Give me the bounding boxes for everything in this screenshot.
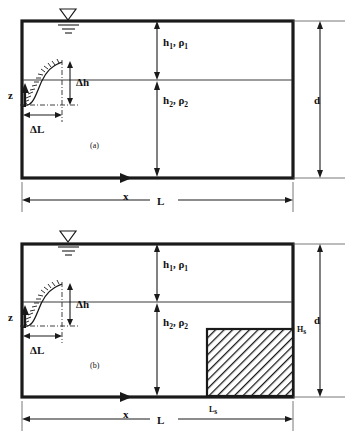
- block-height-label: Hs: [297, 325, 306, 336]
- delta-l-dimension-a: [23, 112, 62, 118]
- h1-dimension-b: [154, 244, 160, 302]
- h2-dimension-a: [154, 81, 160, 177]
- x-axis-arrow-b: [120, 392, 132, 402]
- depth-label-b: d: [314, 314, 320, 326]
- panel-a-diagram: Δh ΔL z x h1, ρ1: [0, 0, 351, 222]
- h2-dimension-b: [154, 303, 160, 396]
- panel-caption-b: (b): [90, 361, 100, 370]
- delta-h-dimension-b: [67, 283, 73, 326]
- delta-l-label-b: ΔL: [30, 344, 44, 356]
- figure-root: Δh ΔL z x h1, ρ1: [0, 0, 351, 443]
- delta-h-label-b: Δh: [76, 298, 89, 310]
- panel-caption-a: (a): [90, 141, 99, 150]
- x-axis-arrow-a: [120, 173, 132, 183]
- length-label-b: L: [157, 414, 164, 426]
- h2-label-b: h2, ρ2: [163, 316, 188, 331]
- z-axis-label-b: z: [8, 311, 13, 323]
- length-label-a: L: [157, 195, 164, 207]
- depth-label-a: d: [314, 94, 320, 106]
- x-axis-label-b: x: [123, 408, 129, 420]
- h1-dimension-a: [154, 21, 160, 80]
- delta-h-dimension-a: [67, 61, 73, 105]
- internal-wave-profile-a: [21, 59, 62, 109]
- panel-b-diagram: Δh ΔL z x Hs Ls: [0, 222, 351, 443]
- delta-h-label-a: Δh: [76, 76, 89, 88]
- z-axis-label-a: z: [8, 89, 13, 101]
- h1-label-b: h1, ρ1: [163, 258, 188, 273]
- internal-wave-profile-b: [21, 280, 62, 330]
- block-length-label: Ls: [209, 405, 217, 416]
- submerged-block: [207, 329, 293, 396]
- delta-l-dimension-b: [23, 333, 62, 339]
- delta-l-label-a: ΔL: [30, 123, 44, 135]
- h1-label-a: h1, ρ1: [163, 36, 188, 51]
- h2-label-a: h2, ρ2: [163, 94, 188, 109]
